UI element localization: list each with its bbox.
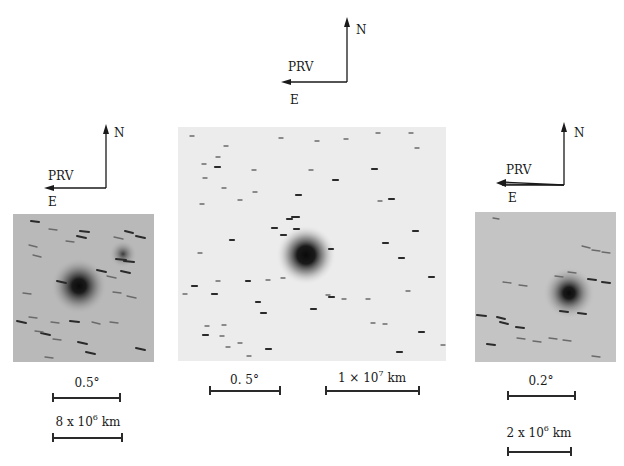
right-compass: N PRV E	[494, 116, 594, 211]
comet-starfield-image	[13, 214, 154, 362]
scale-label: 0. 5°	[208, 374, 281, 386]
right-angular-scale-bar: 0.2°	[506, 375, 576, 401]
left-linear-scale-bar: 8 x 106 km	[51, 413, 125, 443]
scale-label: 0.2°	[506, 375, 576, 387]
center-compass: N PRV E	[280, 14, 380, 109]
compass-arrows-icon	[42, 116, 142, 211]
center-comet-image	[178, 127, 446, 361]
comet-starfield-image	[178, 127, 446, 361]
comet-starfield-image	[475, 212, 616, 362]
left-compass: N PRV E	[42, 116, 142, 211]
scale-label: 2 x 106 km	[502, 427, 576, 439]
left-comet-image	[13, 214, 154, 362]
east-label: E	[508, 192, 517, 204]
scale-label: 1 × 107 km	[324, 372, 420, 384]
center-angular-scale-bar: 0. 5°	[208, 372, 281, 398]
left-angular-scale-bar: 0.5°	[52, 377, 122, 403]
north-label: N	[114, 127, 125, 139]
prv-label: PRV	[288, 61, 313, 73]
right-comet-image	[475, 212, 616, 362]
prv-label: PRV	[506, 164, 531, 176]
scale-label: 8 x 106 km	[51, 416, 125, 428]
north-label: N	[574, 127, 585, 139]
east-label: E	[48, 196, 57, 208]
right-linear-scale-bar: 2 x 106 km	[506, 423, 576, 459]
scale-label: 0.5°	[52, 377, 122, 389]
center-linear-scale-bar: 1 × 107 km	[324, 368, 420, 398]
prv-label: PRV	[48, 170, 73, 182]
east-label: E	[290, 94, 299, 106]
north-label: N	[356, 24, 367, 36]
